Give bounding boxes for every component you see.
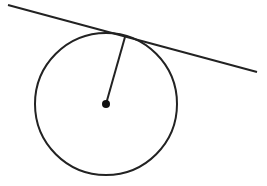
tangent-diagram <box>0 0 267 186</box>
tangent-line <box>8 5 257 72</box>
center-point <box>102 100 110 108</box>
radius-segment <box>106 37 125 104</box>
